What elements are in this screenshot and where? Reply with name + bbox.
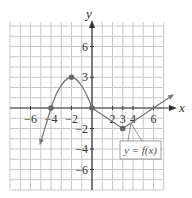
left-arrow-icon (39, 138, 44, 144)
x-axis-arrow-icon (169, 105, 177, 111)
axes (10, 20, 177, 190)
data-point (120, 126, 126, 132)
y-tick-label: 6 (82, 40, 88, 54)
function-graph: −6−4−2234663−2−4−6 y = f(x) x y (0, 0, 192, 198)
data-point (69, 74, 75, 80)
y-tick-label: 3 (82, 70, 88, 84)
data-point (89, 105, 95, 111)
x-tick-label: 6 (151, 112, 157, 126)
y-tick-label: −6 (75, 163, 88, 177)
function-label: y = f(x) (123, 144, 157, 157)
y-tick-label: −2 (75, 122, 88, 136)
x-tick-label: −6 (24, 112, 37, 126)
y-axis-label: y (84, 6, 92, 21)
y-tick-label: −4 (75, 142, 88, 156)
x-tick-label: 2 (110, 112, 116, 126)
right-arrow-icon (168, 94, 174, 99)
x-axis-label: x (178, 100, 185, 115)
x-tick-label: 3 (120, 112, 126, 126)
data-point (48, 105, 54, 111)
y-axis-arrow-icon (89, 20, 95, 28)
